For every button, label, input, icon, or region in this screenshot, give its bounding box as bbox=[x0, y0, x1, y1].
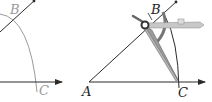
left-label-c: C bbox=[39, 83, 49, 98]
compass-handle bbox=[133, 16, 143, 22]
label-b: B bbox=[150, 2, 161, 17]
compass-pivot bbox=[142, 22, 149, 29]
right-panel: A B C bbox=[81, 1, 205, 100]
compass-pencil-arm bbox=[146, 22, 204, 28]
left-label-b: B bbox=[9, 2, 20, 17]
compass-pencil-clip bbox=[178, 19, 184, 24]
left-panel: B C bbox=[0, 0, 62, 98]
compass-icon bbox=[133, 12, 204, 81]
label-c: C bbox=[178, 85, 188, 100]
left-arc bbox=[0, 14, 37, 92]
construction-diagram: B C A B C bbox=[0, 0, 212, 102]
label-a: A bbox=[81, 84, 91, 99]
ray-ab-arrowhead bbox=[175, 1, 178, 4]
